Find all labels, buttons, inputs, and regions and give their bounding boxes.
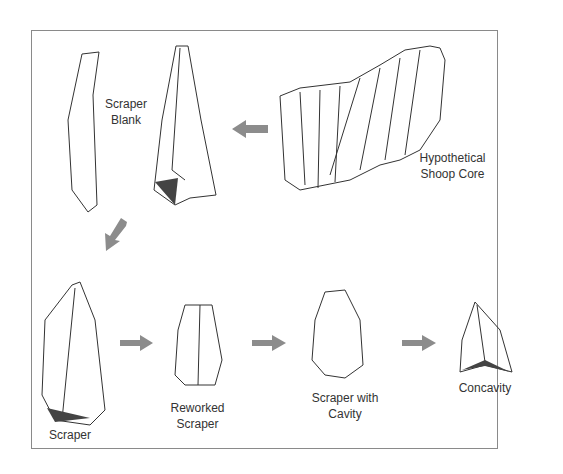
arrow-right-2: [252, 335, 286, 351]
label-line: Cavity: [295, 406, 395, 422]
blank-side-drawing: [68, 52, 99, 212]
arrow-right-3: [402, 335, 436, 351]
label-line: Scraper: [160, 416, 235, 432]
label-scraper-blank: Scraper Blank: [96, 96, 156, 128]
label-line: Scraper with: [295, 390, 395, 406]
label-line: Scraper: [96, 96, 156, 112]
label-line: Shoop Core: [405, 166, 500, 182]
arrow-down-left: [105, 218, 127, 251]
arrow-right-1: [120, 335, 153, 351]
label-line: Blank: [96, 112, 156, 128]
arrow-left: [232, 120, 268, 138]
label-core: Hypothetical Shoop Core: [405, 150, 500, 182]
label-line: Hypothetical: [405, 150, 500, 166]
label-scraper: Scraper: [40, 427, 100, 443]
cavity-drawing: [312, 290, 363, 378]
diagram-artwork: [0, 0, 563, 474]
label-reworked: Reworked Scraper: [160, 400, 235, 432]
label-cavity: Scraper with Cavity: [295, 390, 395, 422]
label-concavity: Concavity: [445, 380, 525, 396]
label-line: Reworked: [160, 400, 235, 416]
